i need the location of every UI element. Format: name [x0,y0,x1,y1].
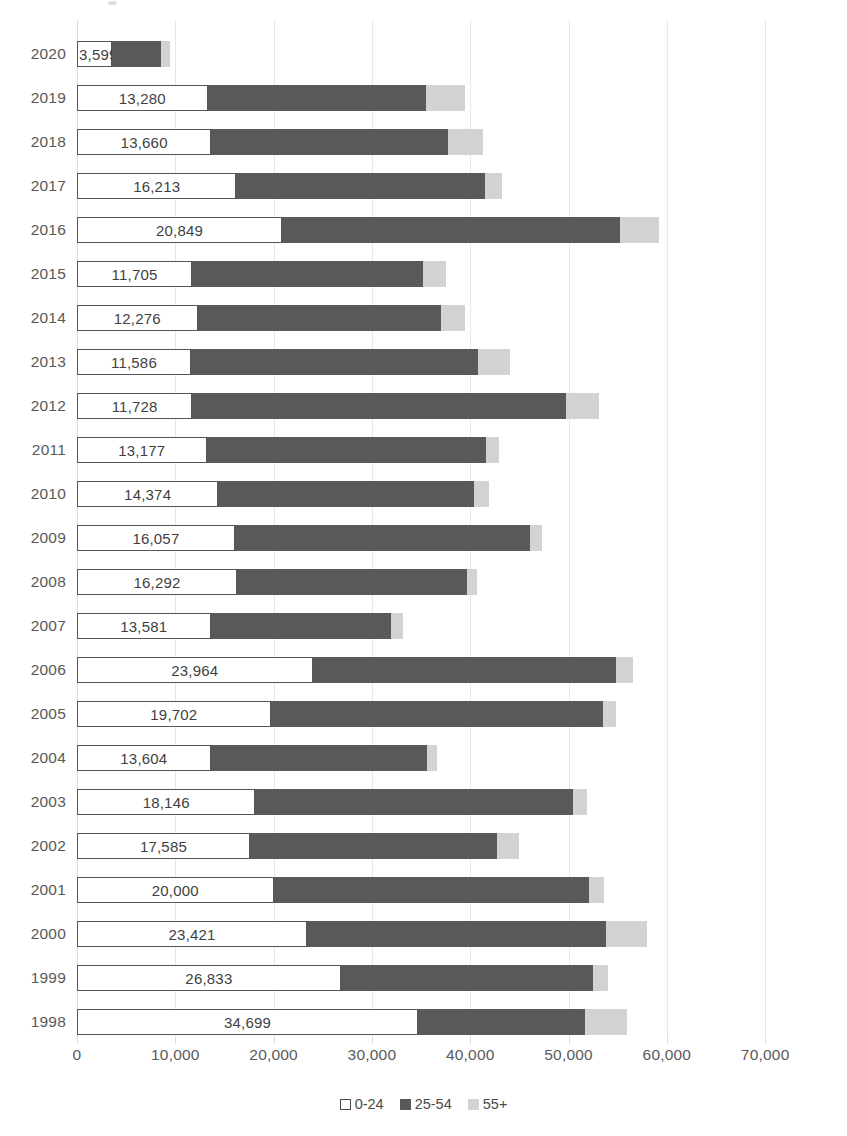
bar-segment-55-plus[interactable] [530,525,542,551]
stacked-bar[interactable]: 23,964 [77,657,633,683]
bar-segment-25-54[interactable] [198,305,441,331]
bar-segment-0-24[interactable]: 23,421 [77,921,307,947]
bar-segment-55-plus[interactable] [478,349,510,375]
bar-segment-25-54[interactable] [192,393,566,419]
bar-row: 201412,276 [77,296,834,340]
bar-segment-55-plus[interactable] [486,437,500,463]
bar-segment-0-24[interactable]: 19,702 [77,701,271,727]
bar-segment-55-plus[interactable] [474,481,489,507]
stacked-bar[interactable]: 16,213 [77,173,502,199]
bar-segment-0-24[interactable]: 11,728 [77,393,192,419]
bar-segment-25-54[interactable] [112,41,160,67]
bar-segment-55-plus[interactable] [423,261,446,287]
bar-segment-55-plus[interactable] [497,833,520,859]
bar-segment-0-24[interactable]: 13,604 [77,745,211,771]
bar-segment-25-54[interactable] [341,965,594,991]
bar-segment-55-plus[interactable] [467,569,477,595]
bar-segment-25-54[interactable] [192,261,423,287]
bar-segment-25-54[interactable] [211,745,427,771]
x-tick-label: 20,000 [249,1046,298,1064]
bar-segment-25-54[interactable] [208,85,426,111]
stacked-bar[interactable]: 18,146 [77,789,587,815]
bar-segment-25-54[interactable] [255,789,573,815]
bar-segment-25-54[interactable] [274,877,590,903]
bar-data-label: 16,292 [78,574,236,591]
bar-segment-55-plus[interactable] [161,41,171,67]
bar-segment-55-plus[interactable] [441,305,466,331]
bar-segment-0-24[interactable]: 13,660 [77,129,211,155]
bar-segment-55-plus[interactable] [620,217,659,243]
stacked-bar[interactable]: 11,586 [77,349,510,375]
bar-segment-55-plus[interactable] [427,745,437,771]
stacked-bar[interactable]: 26,833 [77,965,608,991]
bar-segment-25-54[interactable] [218,481,474,507]
bar-segment-55-plus[interactable] [485,173,502,199]
bar-segment-0-24[interactable]: 34,699 [77,1009,418,1035]
stacked-bar[interactable]: 11,728 [77,393,599,419]
bar-segment-0-24[interactable]: 18,146 [77,789,255,815]
bar-segment-55-plus[interactable] [426,85,465,111]
stacked-bar[interactable]: 11,705 [77,261,446,287]
stacked-bar[interactable]: 16,292 [77,569,477,595]
bar-segment-55-plus[interactable] [566,393,599,419]
legend-item[interactable]: 55+ [468,1096,508,1112]
bar-segment-55-plus[interactable] [606,921,647,947]
bar-segment-55-plus[interactable] [589,877,604,903]
category-label: 2016 [31,221,66,239]
stacked-bar[interactable]: 12,276 [77,305,465,331]
bar-segment-0-24[interactable]: 16,057 [77,525,235,551]
stacked-bar[interactable]: 13,177 [77,437,499,463]
bar-segment-25-54[interactable] [236,173,485,199]
bar-segment-0-24[interactable]: 20,000 [77,877,274,903]
bar-segment-0-24[interactable]: 11,705 [77,261,192,287]
bar-segment-25-54[interactable] [211,129,448,155]
bar-segment-25-54[interactable] [307,921,606,947]
stacked-bar[interactable]: 20,849 [77,217,659,243]
stacked-bar[interactable]: 16,057 [77,525,542,551]
bar-data-label: 12,276 [78,310,197,327]
legend-item[interactable]: 25-54 [400,1096,452,1112]
bar-segment-25-54[interactable] [191,349,478,375]
bar-segment-0-24[interactable]: 14,374 [77,481,218,507]
stacked-bar[interactable]: 13,280 [77,85,465,111]
stacked-bar[interactable]: 19,702 [77,701,616,727]
bar-segment-0-24[interactable]: 13,280 [77,85,208,111]
bar-segment-0-24[interactable]: 12,276 [77,305,198,331]
stacked-bar[interactable]: 14,374 [77,481,489,507]
bar-segment-25-54[interactable] [271,701,603,727]
bar-segment-0-24[interactable]: 13,581 [77,613,211,639]
stacked-bar[interactable]: 34,699 [77,1009,627,1035]
bar-segment-0-24[interactable]: 3,599 [77,41,112,67]
stacked-bar[interactable]: 13,660 [77,129,483,155]
bar-segment-25-54[interactable] [207,437,486,463]
bar-segment-0-24[interactable]: 13,177 [77,437,207,463]
bar-segment-25-54[interactable] [313,657,617,683]
bar-segment-25-54[interactable] [418,1009,585,1035]
stacked-bar[interactable]: 3,599 [77,41,170,67]
bar-segment-25-54[interactable] [235,525,530,551]
bar-segment-0-24[interactable]: 11,586 [77,349,191,375]
bar-segment-0-24[interactable]: 26,833 [77,965,341,991]
bar-segment-0-24[interactable]: 16,292 [77,569,237,595]
bar-segment-0-24[interactable]: 20,849 [77,217,282,243]
stacked-bar[interactable]: 13,581 [77,613,403,639]
bar-segment-55-plus[interactable] [593,965,608,991]
bar-segment-0-24[interactable]: 16,213 [77,173,236,199]
bar-segment-25-54[interactable] [211,613,392,639]
bar-segment-25-54[interactable] [282,217,620,243]
bar-segment-55-plus[interactable] [616,657,633,683]
stacked-bar[interactable]: 20,000 [77,877,604,903]
bar-segment-0-24[interactable]: 17,585 [77,833,250,859]
bar-segment-55-plus[interactable] [573,789,587,815]
legend-item[interactable]: 0-24 [340,1096,384,1112]
stacked-bar[interactable]: 13,604 [77,745,437,771]
bar-segment-55-plus[interactable] [585,1009,626,1035]
bar-segment-25-54[interactable] [237,569,467,595]
stacked-bar[interactable]: 23,421 [77,921,647,947]
bar-segment-55-plus[interactable] [448,129,482,155]
bar-segment-25-54[interactable] [250,833,497,859]
stacked-bar[interactable]: 17,585 [77,833,519,859]
bar-segment-0-24[interactable]: 23,964 [77,657,313,683]
bar-segment-55-plus[interactable] [391,613,403,639]
bar-segment-55-plus[interactable] [603,701,616,727]
